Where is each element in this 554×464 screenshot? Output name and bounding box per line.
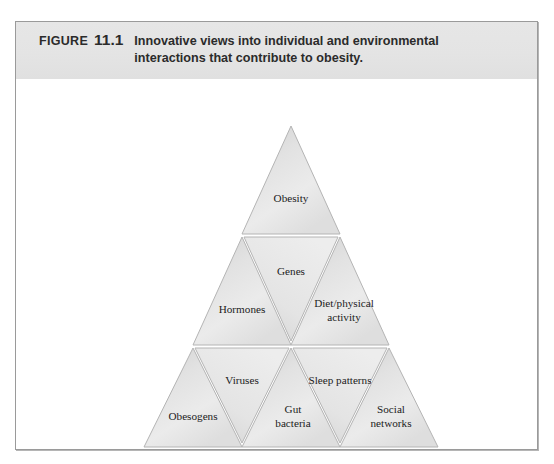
figure-caption: FIGURE 11.1 Innovative views into indivi… bbox=[39, 31, 519, 66]
figure-number: 11.1 bbox=[94, 31, 123, 49]
figure-caption-band: FIGURE 11.1 Innovative views into indivi… bbox=[16, 22, 537, 79]
triangle-cell-label-obesity: Obesity bbox=[274, 192, 309, 204]
triangle-cell-label-gut-line2: bacteria bbox=[275, 417, 310, 429]
figure-label-word: FIGURE bbox=[39, 34, 88, 48]
diagram-area: Obesity Hormones Genes Diet/physical act… bbox=[16, 79, 537, 449]
triangle-cell-label-diet-line1: Diet/physical bbox=[314, 297, 374, 309]
triangle-cell-label-genes: Genes bbox=[277, 265, 305, 277]
triangle-cell-label-diet-line2: activity bbox=[327, 311, 361, 323]
nested-triangle-diagram: Obesity Hormones Genes Diet/physical act… bbox=[16, 79, 538, 450]
figure-frame: FIGURE 11.1 Innovative views into indivi… bbox=[15, 21, 538, 450]
triangle-cell-label-sleep-patterns: Sleep patterns bbox=[308, 374, 371, 386]
triangle-cell-obesity[interactable]: Obesity bbox=[242, 126, 340, 234]
triangle-cell-label-viruses: Viruses bbox=[225, 374, 259, 386]
triangle-cell-label-hormones: Hormones bbox=[219, 303, 266, 315]
triangle-cell-label-social-line2: networks bbox=[370, 417, 411, 429]
triangle-cell-label-gut-line1: Gut bbox=[285, 403, 303, 415]
figure-caption-text: Innovative views into individual and env… bbox=[134, 33, 506, 66]
triangle-cell-label-obesogens: Obesogens bbox=[168, 410, 217, 422]
triangle-cell-label-social-line1: Social bbox=[377, 403, 405, 415]
